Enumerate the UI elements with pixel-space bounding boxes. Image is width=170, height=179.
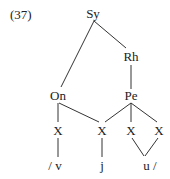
segment-u: u / bbox=[143, 158, 157, 173]
node-rhyme: Rh bbox=[123, 49, 139, 64]
syllable-tree-diagram: (37) Sy Rh On Pe X X X X / v j u / bbox=[0, 0, 170, 179]
node-onset: On bbox=[50, 88, 66, 103]
example-number: (37) bbox=[10, 7, 32, 22]
node-peak: Pe bbox=[125, 88, 138, 103]
edge-x4-u bbox=[145, 138, 158, 156]
edge-pe-x2 bbox=[105, 103, 131, 122]
edge-on-x2 bbox=[59, 103, 99, 122]
edge-x3-u bbox=[132, 138, 144, 156]
node-x1: X bbox=[53, 123, 63, 138]
node-x2: X bbox=[97, 123, 107, 138]
node-x3: X bbox=[126, 123, 136, 138]
edge-sy-rh bbox=[94, 21, 126, 48]
segment-v: / v bbox=[48, 158, 62, 173]
node-x4: X bbox=[154, 123, 164, 138]
segment-j: j bbox=[99, 158, 104, 173]
node-syllable: Sy bbox=[86, 6, 100, 21]
edge-sy-on bbox=[61, 21, 94, 87]
edge-pe-x4 bbox=[131, 103, 157, 122]
